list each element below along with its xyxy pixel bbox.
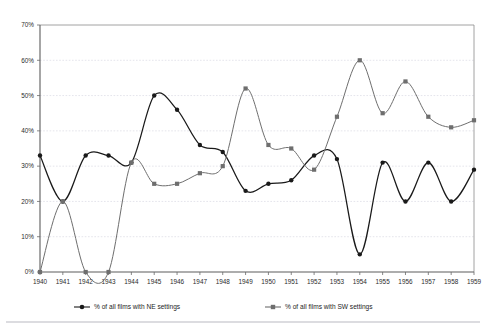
data-point-marker [472,118,476,122]
y-tick-label: 50% [21,92,34,99]
chart-container: 0%10%20%30%40%50%60%70% 1940194119421943… [0,0,486,328]
data-point-marker [84,270,88,274]
x-tick-label: 1948 [216,278,231,285]
x-tick-label: 1950 [261,278,276,285]
x-tick-label: 1952 [307,278,322,285]
data-point-marker [380,160,384,164]
data-point-marker [129,161,133,165]
data-point-marker [38,153,42,157]
x-tick-label: 1956 [398,278,413,285]
x-tick-label: 1954 [353,278,368,285]
data-point-marker [61,199,65,203]
y-tick-label: 0% [25,268,35,275]
x-tick-label: 1945 [147,278,162,285]
y-tick-label: 10% [21,233,34,240]
data-point-marker [266,143,270,147]
data-point-marker [426,115,430,119]
data-point-marker [312,153,316,157]
data-point-marker [152,182,156,186]
y-tick-label: 70% [21,21,34,28]
data-point-marker [449,199,453,203]
x-tick-label: 1957 [421,278,436,285]
data-point-marker [175,107,179,111]
data-point-marker [403,199,407,203]
x-tick-label: 1958 [444,278,459,285]
data-point-marker [243,189,247,193]
data-point-marker [243,86,247,90]
x-axis-tick-labels: 1940194119421943194419451946194719481949… [33,278,482,285]
data-point-marker [358,252,362,256]
data-point-marker [198,143,202,147]
data-point-marker [426,160,430,164]
x-tick-label: 1943 [101,278,116,285]
data-point-marker [266,182,270,186]
legend-label: % of all films with NE settings [94,303,181,311]
data-point-marker [198,171,202,175]
x-tick-label: 1941 [56,278,71,285]
data-point-marker [335,115,339,119]
data-point-marker [472,167,476,171]
data-point-marker [335,157,339,161]
legend-item-ne[interactable]: % of all films with NE settings [74,303,181,311]
y-tick-label: 30% [21,162,34,169]
x-tick-label: 1947 [193,278,208,285]
data-point-marker [175,182,179,186]
data-point-marker [403,79,407,83]
x-tick-label: 1946 [170,278,185,285]
x-tick-label: 1955 [376,278,391,285]
data-point-marker [83,153,87,157]
data-point-marker [289,146,293,150]
chart-legend: % of all films with NE settings% of all … [74,303,373,311]
y-tick-label: 20% [21,198,34,205]
legend-label: % of all films with SW settings [285,303,373,311]
data-point-marker [221,164,225,168]
data-point-marker [449,125,453,129]
x-tick-label: 1951 [284,278,299,285]
data-point-marker [289,178,293,182]
data-point-marker [152,93,156,97]
y-tick-label: 60% [21,57,34,64]
x-tick-label: 1940 [33,278,48,285]
x-tick-label: 1953 [330,278,345,285]
line-chart: 0%10%20%30%40%50%60%70% 1940194119421943… [0,0,486,328]
legend-marker [80,305,85,310]
data-point-marker [106,153,110,157]
data-point-marker [312,168,316,172]
legend-marker [271,305,275,309]
plot-background [40,25,474,272]
x-tick-label: 1959 [467,278,482,285]
y-axis-tick-labels: 0%10%20%30%40%50%60%70% [21,21,34,275]
y-tick-label: 40% [21,127,34,134]
data-point-marker [106,270,110,274]
x-tick-label: 1944 [124,278,139,285]
data-point-marker [381,111,385,115]
x-tick-label: 1949 [238,278,253,285]
data-point-marker [221,150,225,154]
data-point-marker [358,58,362,62]
data-point-marker [38,270,42,274]
legend-item-sw[interactable]: % of all films with SW settings [265,303,373,311]
